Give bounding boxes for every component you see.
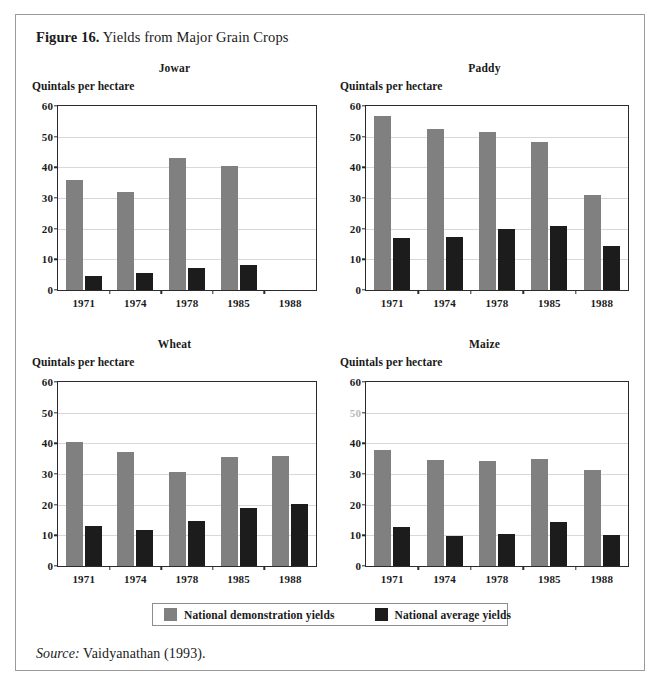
x-tick-label-1974: 1974	[124, 297, 147, 309]
y-tick-mark	[362, 381, 366, 382]
y-tick-label-40: 40	[42, 161, 53, 173]
y-tick-mark	[362, 443, 366, 444]
y-tick-mark	[362, 289, 366, 290]
y-axis-label: Quintals per hectare	[340, 356, 443, 368]
y-tick-label-60: 60	[42, 100, 53, 112]
y-tick-label-20: 20	[42, 499, 53, 511]
y-tick-mark	[362, 228, 366, 229]
y-tick-mark	[54, 381, 58, 382]
y-tick-label-0: 0	[355, 284, 361, 296]
x-tick-mark	[522, 566, 523, 570]
x-tick-mark	[575, 566, 576, 570]
bar-jowar-1985-demonstration	[221, 166, 238, 290]
y-tick-mark	[362, 535, 366, 536]
x-tick-label-1971: 1971	[381, 297, 404, 309]
y-tick-label-30: 30	[42, 192, 53, 204]
bar-paddy-1988-demonstration	[584, 195, 601, 290]
y-tick-mark	[362, 197, 366, 198]
x-tick-label-1971: 1971	[72, 297, 95, 309]
y-tick-label-60: 60	[42, 376, 53, 388]
plot-area-maize: 010203040506019711974197819851988	[365, 381, 629, 567]
y-tick-mark	[54, 289, 58, 290]
figure-title: Yields from Major Grain Crops	[103, 29, 289, 45]
y-tick-mark	[54, 535, 58, 536]
x-tick-label-1988: 1988	[279, 297, 302, 309]
bar-maize-1988-demonstration	[584, 470, 601, 566]
chart-legend: National demonstration yields National a…	[152, 603, 508, 626]
chart-panel-wheat: WheatQuintals per hectare010203040506019…	[32, 338, 317, 593]
bar-jowar-1974-average	[136, 273, 153, 290]
bar-maize-1974-demonstration	[427, 460, 444, 566]
gridline	[366, 413, 628, 414]
y-tick-mark	[362, 504, 366, 505]
x-tick-mark	[109, 290, 110, 294]
gridline	[366, 443, 628, 444]
y-tick-mark	[54, 259, 58, 260]
y-tick-label-10: 10	[350, 253, 361, 265]
bar-wheat-1974-demonstration	[117, 452, 134, 566]
x-tick-label-1974: 1974	[433, 297, 456, 309]
x-tick-label-1985: 1985	[227, 573, 250, 585]
x-tick-mark	[575, 290, 576, 294]
x-tick-label-1988: 1988	[590, 297, 613, 309]
x-tick-mark	[212, 290, 213, 294]
y-tick-mark	[54, 167, 58, 168]
y-axis-label: Quintals per hectare	[32, 80, 135, 92]
legend-item-average: National average yields	[375, 608, 512, 621]
y-tick-label-30: 30	[350, 468, 361, 480]
gridline	[58, 229, 316, 230]
y-tick-label-60: 60	[350, 376, 361, 388]
y-tick-mark	[54, 228, 58, 229]
legend-label-average: National average yields	[395, 609, 512, 621]
y-tick-label-10: 10	[42, 253, 53, 265]
chart-panel-paddy: PaddyQuintals per hectare010203040506019…	[340, 62, 629, 317]
x-tick-label-1971: 1971	[72, 573, 95, 585]
y-tick-mark	[54, 473, 58, 474]
source-label: Source:	[36, 646, 80, 661]
y-tick-mark	[54, 412, 58, 413]
y-tick-mark	[54, 197, 58, 198]
bar-paddy-1985-average	[550, 226, 567, 290]
y-tick-label-0: 0	[47, 284, 53, 296]
x-tick-label-1985: 1985	[538, 297, 561, 309]
y-tick-mark	[362, 167, 366, 168]
x-tick-label-1978: 1978	[176, 297, 199, 309]
y-tick-label-50: 50	[350, 407, 361, 419]
x-tick-mark	[160, 566, 161, 570]
x-tick-label-1988: 1988	[590, 573, 613, 585]
bar-wheat-1988-demonstration	[272, 456, 289, 566]
bar-maize-1988-average	[603, 535, 620, 566]
x-tick-mark	[418, 566, 419, 570]
chart-title-paddy: Paddy	[340, 62, 629, 74]
bar-wheat-1978-demonstration	[169, 472, 186, 566]
y-tick-label-40: 40	[42, 437, 53, 449]
x-tick-label-1978: 1978	[486, 297, 509, 309]
bar-wheat-1974-average	[136, 530, 153, 566]
x-tick-mark	[522, 290, 523, 294]
bar-jowar-1971-demonstration	[66, 180, 83, 290]
source-text: Vaidyanathan (1993).	[83, 646, 206, 661]
y-tick-label-0: 0	[47, 560, 53, 572]
bar-maize-1978-demonstration	[479, 461, 496, 566]
bar-wheat-1971-average	[85, 526, 102, 566]
bar-paddy-1988-average	[603, 246, 620, 290]
legend-label-demonstration: National demonstration yields	[184, 609, 335, 621]
bar-wheat-1978-average	[188, 521, 205, 566]
bar-paddy-1974-average	[446, 237, 463, 290]
chart-title-jowar: Jowar	[32, 62, 317, 74]
chart-title-wheat: Wheat	[32, 338, 317, 350]
y-tick-label-40: 40	[350, 437, 361, 449]
y-tick-label-10: 10	[42, 529, 53, 541]
y-tick-label-50: 50	[42, 407, 53, 419]
x-tick-mark	[470, 290, 471, 294]
chart-title-maize: Maize	[340, 338, 629, 350]
x-tick-mark	[470, 566, 471, 570]
y-tick-label-20: 20	[350, 499, 361, 511]
bar-paddy-1971-demonstration	[374, 116, 391, 290]
y-tick-label-50: 50	[350, 131, 361, 143]
y-tick-label-20: 20	[350, 223, 361, 235]
y-tick-label-0: 0	[355, 560, 361, 572]
bar-wheat-1971-demonstration	[66, 442, 83, 567]
x-tick-mark	[264, 566, 265, 570]
plot-area-wheat: 010203040506019711974197819851988	[57, 381, 317, 567]
